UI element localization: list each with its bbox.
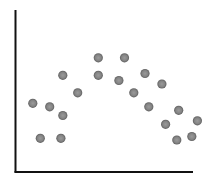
data-point (114, 76, 123, 85)
data-point (157, 79, 166, 88)
data-point (129, 88, 138, 97)
data-point (193, 116, 202, 125)
data-point (161, 120, 170, 129)
data-point (187, 132, 196, 141)
data-point (56, 134, 65, 143)
data-point (120, 53, 129, 62)
scatter-chart (0, 0, 211, 175)
data-point (58, 111, 67, 120)
data-point (28, 99, 37, 108)
data-point (73, 88, 82, 97)
data-points (28, 53, 202, 144)
data-point (174, 106, 183, 115)
data-point (45, 102, 54, 111)
data-point (94, 71, 103, 80)
data-point (94, 53, 103, 62)
data-point (172, 135, 181, 144)
data-point (58, 71, 67, 80)
data-point (144, 102, 153, 111)
data-point (140, 69, 149, 78)
data-point (36, 134, 45, 143)
